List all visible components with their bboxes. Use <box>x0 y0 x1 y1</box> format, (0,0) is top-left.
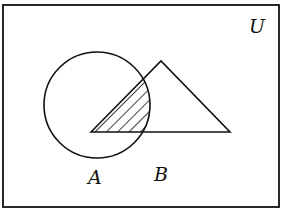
intersection-hatch <box>91 61 230 132</box>
venn-diagram: U A B <box>0 0 285 216</box>
universe-label: U <box>249 15 266 37</box>
set-a-label: A <box>86 166 102 188</box>
set-b-label: B <box>153 163 168 185</box>
